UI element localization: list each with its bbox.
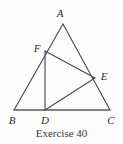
vertex-label-a: A [57,8,64,19]
exercise-figure: A B C D E F Exercise 40 [0,0,123,144]
vertex-label-e: E [101,71,108,82]
figure-caption: Exercise 40 [0,127,123,140]
vertex-label-d: D [41,115,49,126]
segment-ab [14,24,63,110]
segment-de [45,78,95,110]
vertex-label-c: C [107,115,114,126]
segment-fe [45,51,95,78]
vertex-label-b: B [9,115,16,126]
segment-ac [63,24,110,110]
vertex-label-f: F [34,43,41,54]
